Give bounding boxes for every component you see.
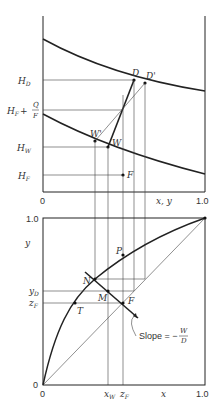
point-f-lower — [121, 301, 124, 304]
tie-line-dprime-wprime — [95, 83, 145, 141]
point-top-right — [203, 216, 206, 219]
tie-line-d-w — [108, 80, 134, 147]
point-n — [93, 277, 96, 280]
label-hd: HD — [17, 76, 31, 87]
slope-numerator: W — [180, 327, 188, 335]
label-xw: xW — [104, 389, 116, 400]
label-t: T — [77, 306, 84, 316]
point-t — [73, 301, 76, 304]
label-m: M — [97, 293, 108, 303]
label-q-numerator: Q — [33, 101, 39, 109]
ponchon-savarit-mccabe-thiele-diagram: D D' W' W F HD HF+ Q F HW HF 0 x, y 1.0 — [0, 0, 223, 411]
diagonal-line — [43, 218, 205, 385]
label-f-lower: F — [127, 296, 135, 306]
lower-x-tick-1: 1.0 — [196, 389, 209, 399]
slope-label-text: Slope = − — [139, 331, 178, 341]
label-d: D — [131, 68, 139, 78]
lower-y-axis-label: y — [24, 238, 31, 248]
upper-x-axis-label: x, y — [156, 196, 173, 206]
label-p: P — [115, 246, 123, 256]
lower-x-tick-0: 0 — [40, 389, 45, 399]
lower-plot: N M F T P Slope = − W D 1.0 y yD zF 0 0 … — [24, 214, 209, 400]
label-zf-x: zF — [119, 389, 130, 400]
upper-x-tick-0: 0 — [40, 196, 45, 206]
label-hw: HW — [16, 143, 32, 154]
label-n: N — [82, 276, 92, 286]
lower-x-axis-label: x — [161, 389, 166, 399]
label-yd: yD — [28, 286, 39, 297]
label-hf: HF — [17, 171, 31, 182]
label-w: W — [112, 138, 122, 148]
lower-y-tick-0: 0 — [33, 380, 38, 390]
label-hf-plus-q-over-f: HF+ — [6, 106, 28, 117]
upper-x-tick-1: 1.0 — [196, 196, 209, 206]
slope-arrow — [131, 316, 136, 336]
upper-plot: D D' W' W F HD HF+ Q F HW HF 0 x, y 1.0 — [6, 16, 209, 206]
lower-y-tick-1: 1.0 — [26, 214, 39, 224]
label-d-prime: D' — [145, 71, 156, 81]
label-f-upper: F — [126, 170, 134, 180]
saturated-vapor-curve — [43, 39, 205, 91]
label-f-denominator: F — [32, 112, 39, 120]
connector-lines — [95, 80, 145, 385]
label-w-prime: W' — [90, 129, 102, 139]
label-zf-y: zF — [28, 298, 39, 309]
slope-denominator: D — [180, 337, 187, 345]
saturated-liquid-curve — [43, 114, 205, 174]
